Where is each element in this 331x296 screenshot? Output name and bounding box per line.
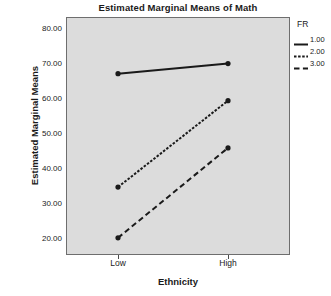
series-line-2.00 xyxy=(118,101,228,187)
x-tick-mark xyxy=(228,255,229,259)
legend-line-swatch xyxy=(294,47,308,56)
chart-title: Estimated Marginal Means of Math xyxy=(66,2,290,13)
legend-entry: 1.00 xyxy=(294,34,331,45)
y-tick-label: 40.00 xyxy=(22,164,62,173)
legend-label: 1.00 xyxy=(310,35,325,44)
x-tick-label: High xyxy=(198,258,258,268)
y-tick-label: 20.00 xyxy=(22,234,62,243)
y-tick-label: 50.00 xyxy=(22,129,62,138)
y-axis-tick-labels: 20.0030.0040.0050.0060.0070.0080.00 xyxy=(16,0,62,296)
data-point-marker xyxy=(225,61,230,66)
x-axis-title: Ethnicity xyxy=(66,276,290,287)
legend-entry: 2.00 xyxy=(294,46,331,57)
data-point-marker xyxy=(115,185,120,190)
plot-series-layer xyxy=(66,17,290,255)
y-tick-label: 30.00 xyxy=(22,199,62,208)
legend-label: 3.00 xyxy=(310,59,325,68)
data-point-marker xyxy=(225,145,230,150)
legend-entry: 3.00 xyxy=(294,58,331,69)
y-tick-label: 80.00 xyxy=(22,24,62,33)
y-tick-label: 60.00 xyxy=(22,94,62,103)
data-point-marker xyxy=(225,98,230,103)
legend: FR 1.002.003.00 xyxy=(294,19,331,70)
legend-line-swatch xyxy=(294,59,308,68)
x-tick-mark xyxy=(118,255,119,259)
legend-title: FR xyxy=(297,19,331,29)
data-point-marker xyxy=(115,235,120,240)
series-line-3.00 xyxy=(118,148,228,238)
interaction-plot: Estimated Marginal Means of Math Estimat… xyxy=(0,0,331,296)
series-line-1.00 xyxy=(118,64,228,74)
data-point-marker xyxy=(115,71,120,76)
x-tick-label: Low xyxy=(88,258,148,268)
legend-entries: 1.002.003.00 xyxy=(294,34,331,69)
legend-label: 2.00 xyxy=(310,47,325,56)
legend-line-swatch xyxy=(294,35,308,44)
y-tick-label: 70.00 xyxy=(22,59,62,68)
